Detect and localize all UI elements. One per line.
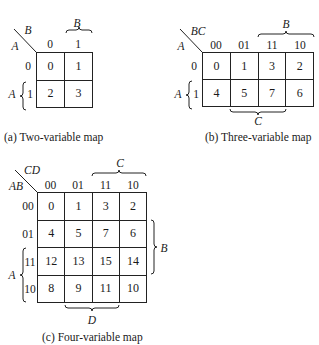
row-brace-label: A (172, 88, 184, 100)
row-header: 0 (188, 60, 200, 72)
cell: 7 (258, 80, 286, 107)
cell: 3 (258, 53, 286, 80)
cell: 1 (65, 193, 92, 221)
row-header: 11 (22, 256, 38, 268)
top-brace-label: C (113, 157, 127, 169)
cell: 2 (119, 193, 146, 221)
col-header: 10 (119, 179, 147, 191)
bottom-brace-label: C (251, 115, 265, 127)
row-header: 1 (24, 88, 36, 100)
row-var-label: AB (7, 180, 25, 192)
col-header: 01 (64, 179, 92, 191)
bottom-brace-label: D (85, 314, 99, 326)
col-var-label: CD (23, 164, 41, 176)
row-header: 0 (22, 60, 34, 72)
cell: 1 (230, 53, 258, 80)
map-grid: 01 23 (36, 52, 93, 108)
col-header: 11 (92, 179, 119, 191)
cell: 4 (38, 220, 65, 248)
row-var-label: A (9, 40, 21, 52)
left-brace-label: A (6, 269, 18, 281)
col-header: 0 (36, 38, 64, 50)
cell: 4 (203, 80, 231, 107)
caption: (c) Four-variable map (42, 331, 143, 343)
cell: 15 (92, 248, 119, 276)
top-brace-label: B (279, 18, 293, 30)
cell: 0 (37, 53, 65, 81)
map-grid: 0 1 3 2 4 5 7 6 12 13 15 14 8 9 11 10 (37, 192, 147, 303)
cell: 0 (38, 193, 65, 221)
cell: 3 (65, 80, 93, 108)
cell: 11 (92, 275, 119, 303)
col-header: 10 (286, 39, 314, 51)
col-header: 1 (64, 38, 92, 50)
cell: 1 (65, 53, 93, 81)
cell: 9 (65, 275, 92, 303)
row-header: 1 (190, 88, 202, 100)
map-grid: 0 1 3 2 4 5 7 6 (202, 52, 314, 107)
cell: 5 (230, 80, 258, 107)
col-header: 00 (202, 39, 230, 51)
col-header: 11 (258, 39, 286, 51)
row-brace-label: A (6, 88, 18, 100)
cell: 2 (37, 80, 65, 108)
cell: 2 (286, 53, 314, 80)
cell: 5 (65, 220, 92, 248)
cell: 6 (119, 220, 146, 248)
cell: 6 (286, 80, 314, 107)
row-header: 00 (20, 200, 36, 212)
caption: (a) Two-variable map (4, 131, 103, 143)
col-var-label: BC (189, 25, 207, 37)
row-header: 10 (22, 283, 38, 295)
cell: 12 (38, 248, 65, 276)
row-var-label: A (175, 40, 187, 52)
caption: (b) Three-variable map (205, 131, 311, 143)
col-var-label: B (22, 24, 34, 36)
cell: 3 (92, 193, 119, 221)
col-header: 01 (230, 39, 258, 51)
cell: 7 (92, 220, 119, 248)
cell: 8 (38, 275, 65, 303)
right-brace-label: B (158, 242, 170, 254)
row-header: 01 (20, 228, 36, 240)
cell: 14 (119, 248, 146, 276)
col-brace-label: B (70, 17, 84, 29)
col-header: 00 (37, 179, 64, 191)
cell: 0 (203, 53, 231, 80)
cell: 13 (65, 248, 92, 276)
cell: 10 (119, 275, 146, 303)
